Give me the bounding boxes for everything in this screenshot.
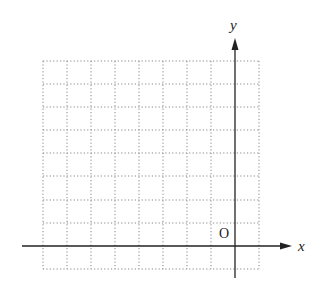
x-axis-arrow-icon [280,243,292,250]
y-axis-label: y [228,17,237,33]
x-axis-label: x [297,238,305,254]
coordinate-plane: x y O [0,0,326,294]
y-axis [232,38,239,278]
origin-label: O [219,226,229,241]
x-axis [22,243,292,250]
y-axis-arrow-icon [232,38,239,50]
